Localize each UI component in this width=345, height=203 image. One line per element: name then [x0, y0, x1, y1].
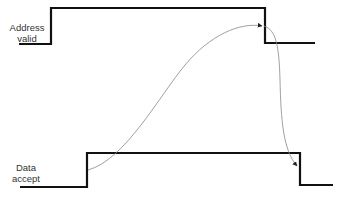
handshake-arrow-2: [264, 26, 297, 166]
timing-diagram: [0, 0, 345, 203]
data-accept-label: Data accept: [11, 162, 41, 184]
data-accept-waveform: [20, 153, 333, 187]
data-accept-label-line1: Data: [11, 162, 41, 173]
address-valid-label-line2: valid: [9, 33, 45, 44]
handshake-arrow-1: [88, 25, 262, 170]
data-accept-label-line2: accept: [11, 173, 41, 184]
address-valid-label-line1: Address: [9, 22, 45, 33]
address-valid-waveform: [19, 8, 315, 44]
address-valid-label: Address valid: [9, 22, 45, 44]
